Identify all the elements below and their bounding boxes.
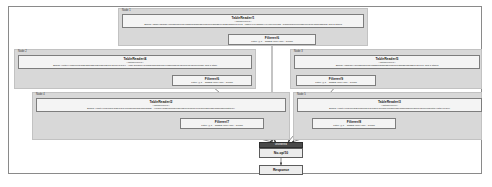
operator-tablereader-1[interactable]: TableReader/1 <dataSources> Spans: /Tabl… [122,14,364,28]
operator-title: Response [260,166,302,174]
operator-tablereader-4[interactable]: TableReader/4 <dataSources> Spans: /"rot… [18,55,252,69]
operator-noop-10[interactable]: No-op/10 [259,148,303,158]
operator-filterer-8[interactable]: Filterer/8 Filter: @7 = 53852 (likely fa… [312,118,396,129]
node-cluster-label: Node 2 [18,50,27,54]
operator-filterer-9[interactable]: Filterer/9 Filter: @1 = 53852 (likely fa… [296,75,376,86]
operator-filter-expr: Filter: @1 = 53852 (likely fail) - 17036 [174,81,250,84]
operator-tablereader-3[interactable]: TableReader/3 <dataSources> Spans: /"par… [297,98,482,112]
operator-filter-expr: Filter: @7 = 53852 (likely fail) - 17036 [230,40,314,43]
operator-title: No-op/10 [260,149,302,157]
node-cluster-label: Node 3 [294,50,303,54]
node-cluster-label: Node 4 [36,93,45,97]
operator-spans: Spans: /Table/"f5ae5e"/f0ea3a/de1ed9/a38… [124,23,362,26]
query-plan-canvas: Node 1 TableReader/1 <dataSources> Spans… [0,0,492,187]
operator-filterer-6[interactable]: Filterer/6 Filter: @7 = 53852 (likely fa… [228,34,316,45]
node-cluster-label: Node 1 [122,9,131,13]
operator-tablereader-2[interactable]: TableReader/2 <dataSources> Spans: /"par… [36,98,286,112]
operator-tablereader-5[interactable]: TableReader/5 <dataSources> Spans: /"f5a… [294,55,480,69]
operator-spans: Spans: /"f5ae5e"/"f0ea3a/de1ed9/a38bca/b… [296,64,478,67]
operator-filter-expr: Filter: @7 = 53852 (likely fail) - 17036 [182,124,262,127]
operator-spans: Spans: /"rota4"/"ad8/ca45/ad5/ad5/ad5/ca… [20,64,250,67]
operator-filter-expr: Filter: @1 = 53852 (likely fail) - 17036 [298,81,374,84]
node-cluster-label: Node 5 [297,93,306,97]
operator-response[interactable]: Response [259,165,303,175]
operator-filter-expr: Filter: @7 = 53852 (likely fail) - 17036 [314,124,394,127]
operator-filterer-6b[interactable]: Filterer/6 Filter: @1 = 53852 (likely fa… [172,75,252,86]
operator-spans: Spans: /"part"/"a45/ca45/f5/ca5/ca5/a4b/… [299,107,480,110]
operator-filterer-7[interactable]: Filterer/7 Filter: @7 = 53852 (likely fa… [180,118,264,129]
operator-spans: Spans: /"part"/"a45/ca0h-ga5/a4b/a4f/ca5… [38,107,284,110]
